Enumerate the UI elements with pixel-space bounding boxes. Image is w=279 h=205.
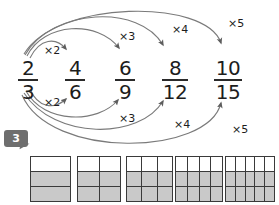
fraction-4: 812 — [155, 58, 195, 102]
area-model-row — [0, 156, 279, 202]
area-model-cell-shaded — [246, 172, 256, 186]
area-model-cell-shaded — [265, 187, 274, 201]
fraction-numerator: 2 — [8, 58, 48, 78]
area-model-1 — [30, 156, 71, 202]
multiplier-label-top-4: ×5 — [228, 17, 244, 30]
area-model-4 — [175, 156, 223, 202]
fraction-numerator: 6 — [105, 58, 145, 78]
exercise-badge: 3 — [4, 130, 38, 152]
multiplier-label-top-2: ×3 — [119, 30, 135, 43]
fraction-5: 1015 — [208, 58, 248, 102]
speech-bubble-tail-icon — [20, 142, 30, 150]
fraction-numerator: 4 — [55, 58, 95, 78]
area-model-cell-shaded — [158, 187, 172, 201]
fraction-denominator: 6 — [55, 82, 95, 102]
area-model-row — [226, 157, 274, 172]
area-model-cell-shaded — [142, 187, 157, 201]
area-model-cell-shaded — [226, 187, 236, 201]
area-model-cell-shaded — [200, 172, 212, 186]
area-model-row — [176, 187, 222, 201]
area-model-cell-shaded — [31, 187, 70, 201]
area-model-cell-shaded — [226, 172, 236, 186]
area-model-cell-shaded — [176, 172, 188, 186]
area-model-row — [176, 157, 222, 172]
area-model-5 — [225, 156, 275, 202]
fraction-2: 46 — [55, 58, 95, 102]
fraction-denominator: 9 — [105, 82, 145, 102]
area-model-row — [226, 172, 274, 187]
area-model-row — [78, 157, 120, 172]
area-model-cell-empty — [236, 157, 246, 171]
fraction-denominator: 12 — [155, 82, 195, 102]
area-model-3 — [126, 156, 173, 202]
multiplier-label-top-3: ×4 — [172, 23, 188, 36]
area-model-cell-empty — [142, 157, 157, 171]
area-model-cell-empty — [31, 157, 70, 171]
worksheet-canvas: 2346698121015 ×2×3×4×5×2×3×4×5 3 — [0, 0, 279, 205]
area-model-row — [127, 172, 172, 187]
multiplier-label-top-1: ×2 — [44, 44, 60, 57]
fraction-3: 69 — [105, 58, 145, 102]
area-model-cell-shaded — [255, 172, 265, 186]
area-model-row — [78, 187, 120, 201]
fraction-denominator: 3 — [8, 82, 48, 102]
area-model-cell-shaded — [236, 172, 246, 186]
area-model-cell-empty — [211, 157, 222, 171]
multiplier-label-bottom-3: ×4 — [174, 118, 190, 131]
area-model-cell-shaded — [127, 172, 142, 186]
area-model-cell-empty — [226, 157, 236, 171]
area-model-cell-shaded — [78, 187, 100, 201]
area-model-row — [78, 172, 120, 187]
area-model-cell-shaded — [255, 187, 265, 201]
area-model-cell-shaded — [127, 187, 142, 201]
area-model-cell-shaded — [31, 172, 70, 186]
numerator-multiplier-arrow-2 — [27, 29, 119, 56]
area-model-cell-shaded — [158, 172, 172, 186]
area-model-cell-empty — [158, 157, 172, 171]
area-model-cell-shaded — [100, 172, 121, 186]
area-model-row — [127, 157, 172, 172]
area-model-row — [127, 187, 172, 201]
area-model-cell-empty — [246, 157, 256, 171]
area-model-cell-shaded — [188, 172, 200, 186]
area-model-cell-shaded — [211, 187, 222, 201]
area-model-cell-empty — [176, 157, 188, 171]
area-model-2 — [77, 156, 121, 202]
area-model-cell-empty — [255, 157, 265, 171]
area-model-row — [31, 187, 70, 201]
fraction-numerator: 10 — [208, 58, 248, 78]
area-model-row — [176, 172, 222, 187]
multiplier-label-bottom-1: ×2 — [44, 96, 60, 109]
area-model-cell-shaded — [188, 187, 200, 201]
area-model-cell-shaded — [200, 187, 212, 201]
area-model-cell-empty — [200, 157, 212, 171]
multiplier-label-bottom-2: ×3 — [119, 112, 135, 125]
area-model-cell-shaded — [265, 172, 274, 186]
fraction-denominator: 15 — [208, 82, 248, 102]
area-model-cell-shaded — [236, 187, 246, 201]
area-model-cell-shaded — [78, 172, 100, 186]
area-model-cell-empty — [100, 157, 121, 171]
area-model-cell-empty — [265, 157, 274, 171]
area-model-cell-empty — [127, 157, 142, 171]
area-model-row — [226, 187, 274, 201]
area-model-cell-empty — [188, 157, 200, 171]
fraction-1: 23 — [8, 58, 48, 102]
area-model-cell-shaded — [100, 187, 121, 201]
area-model-cell-shaded — [246, 187, 256, 201]
area-model-cell-empty — [78, 157, 100, 171]
area-model-row — [31, 157, 70, 172]
fraction-numerator: 8 — [155, 58, 195, 78]
area-model-row — [31, 172, 70, 187]
area-model-cell-shaded — [211, 172, 222, 186]
area-model-cell-shaded — [176, 187, 188, 201]
area-model-cell-shaded — [142, 172, 157, 186]
multiplier-label-bottom-4: ×5 — [232, 123, 248, 136]
